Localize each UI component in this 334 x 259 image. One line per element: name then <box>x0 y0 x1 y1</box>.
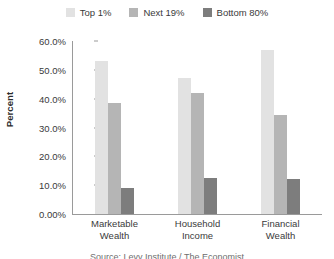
bars-area <box>73 41 322 214</box>
y-tick-label: 0.00% <box>39 209 66 220</box>
x-axis-labels: MarketableWealthHouseholdIncomeFinancial… <box>73 218 322 248</box>
x-axis-line <box>72 214 322 215</box>
bar-group <box>73 41 156 214</box>
x-tick-label-line: Marketable <box>73 218 156 230</box>
legend-item-top-1: Top 1% <box>66 8 112 18</box>
x-tick-label: FinancialWealth <box>239 218 322 241</box>
x-tick-label-line: Income <box>156 230 239 242</box>
legend-label-next-19: Next 19% <box>143 8 184 18</box>
y-tick-label: 60.0% <box>39 36 66 47</box>
bar-chart: Top 1% Next 19% Bottom 80% Percent 0.00%… <box>0 0 334 259</box>
bar <box>287 179 300 214</box>
x-tick-label-line: Financial <box>239 218 322 230</box>
x-tick-label-line: Household <box>156 218 239 230</box>
bar-group <box>156 41 239 214</box>
bar <box>204 178 217 214</box>
legend-item-next-19: Next 19% <box>129 8 184 18</box>
x-tick-label-line: Wealth <box>73 230 156 242</box>
legend-item-bottom-80: Bottom 80% <box>203 8 269 18</box>
plot-area: Percent 0.00%10.0%20.0%30.0%40.0%50.0%60… <box>0 30 334 230</box>
bar <box>95 61 108 214</box>
legend-label-top-1: Top 1% <box>80 8 112 18</box>
legend-swatch-next-19 <box>129 8 138 17</box>
y-axis-ticks: 0.00%10.0%20.0%30.0%40.0%50.0%60.0% <box>22 30 72 214</box>
bar <box>261 50 274 214</box>
y-axis-title: Percent <box>4 80 15 140</box>
legend-swatch-top-1 <box>66 8 75 17</box>
legend-swatch-bottom-80 <box>203 8 212 17</box>
y-tick-label: 20.0% <box>39 151 66 162</box>
x-tick-label: HouseholdIncome <box>156 218 239 241</box>
bar <box>108 103 121 214</box>
y-tick-label: 30.0% <box>39 122 66 133</box>
bar <box>121 188 134 214</box>
x-tick-label-line: Wealth <box>239 230 322 242</box>
bar <box>274 115 287 214</box>
x-tick-label: MarketableWealth <box>73 218 156 241</box>
y-tick-label: 40.0% <box>39 93 66 104</box>
y-tick-label: 10.0% <box>39 180 66 191</box>
y-tick-label: 50.0% <box>39 64 66 75</box>
bar <box>191 93 204 214</box>
bar <box>178 78 191 214</box>
bar-group <box>239 41 322 214</box>
chart-legend: Top 1% Next 19% Bottom 80% <box>0 8 334 18</box>
chart-caption: Source: Levy Institute / The Economist <box>0 252 334 259</box>
legend-label-bottom-80: Bottom 80% <box>217 8 269 18</box>
